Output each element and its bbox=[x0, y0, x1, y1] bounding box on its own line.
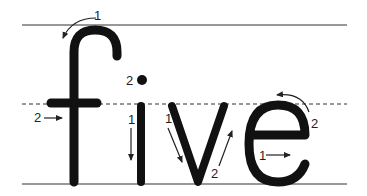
label-e1: 1 bbox=[259, 148, 266, 163]
letter-f: 1 2 bbox=[34, 8, 117, 182]
letter-formation-diagram: 1 2 2 1 1 2 1 2 bbox=[0, 0, 367, 196]
letter-e: 1 2 bbox=[249, 95, 318, 182]
letter-v: 1 2 bbox=[165, 106, 232, 182]
label-f1: 1 bbox=[94, 8, 101, 23]
label-v1: 1 bbox=[165, 111, 172, 126]
label-e2: 2 bbox=[311, 116, 318, 131]
label-v2: 2 bbox=[211, 166, 218, 181]
arrow-v2-icon bbox=[219, 131, 232, 166]
handwriting-worksheet: 1 2 2 1 1 2 1 2 bbox=[0, 0, 367, 196]
letter-i: 2 1 bbox=[126, 73, 147, 182]
dot-icon bbox=[137, 75, 147, 85]
label-i2: 2 bbox=[126, 73, 133, 88]
label-f2: 2 bbox=[34, 110, 41, 125]
label-i1: 1 bbox=[128, 112, 135, 127]
